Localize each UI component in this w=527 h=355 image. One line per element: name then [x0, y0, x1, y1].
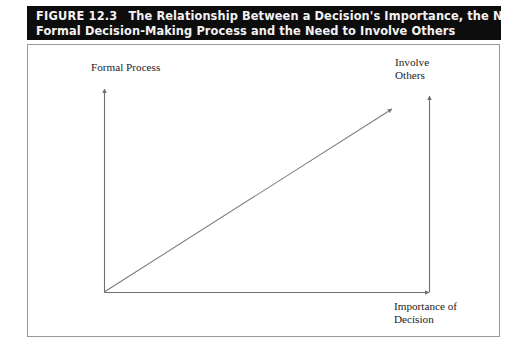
- trend-line: [105, 109, 392, 292]
- x-axis-label-line-1: Importance of: [394, 300, 457, 313]
- x-axis-label-line-2: Decision: [394, 313, 457, 326]
- x-axis-label: Importance of Decision: [394, 300, 457, 326]
- right-axis-label-line-2: Others: [395, 69, 429, 82]
- right-axis-label: Involve Others: [395, 56, 429, 82]
- right-axis-label-line-1: Involve: [395, 56, 429, 69]
- figure-page: FIGURE 12.3The Relationship Between a De…: [0, 0, 527, 355]
- left-axis-label: Formal Process: [91, 61, 160, 74]
